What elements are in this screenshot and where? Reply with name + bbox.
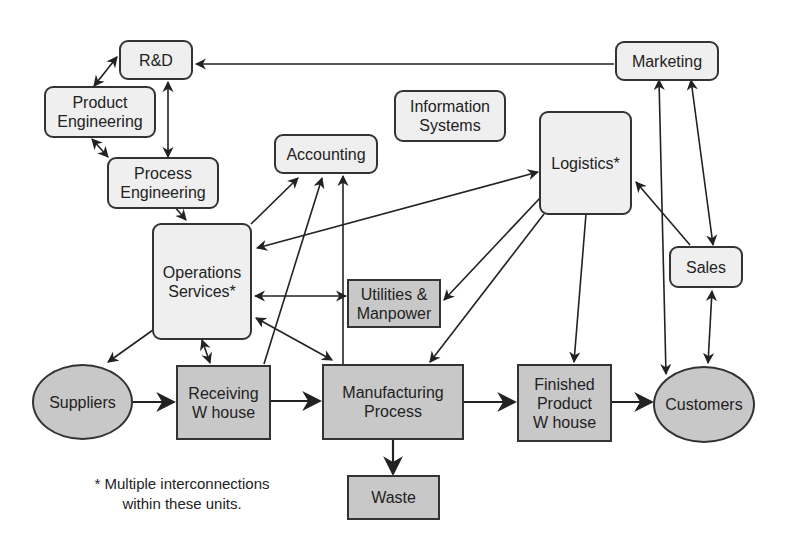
customers-node: Customers <box>653 366 755 443</box>
manufacturing-process-node: Manufacturing Process <box>322 364 464 440</box>
operations-services-node: Operations Services* <box>152 223 252 340</box>
information-systems-node: Information Systems <box>394 90 506 142</box>
manufacturing-organization-diagram: R&D Product Engineering Process Engineer… <box>0 0 785 552</box>
utilities-manpower-node: Utilities & Manpower <box>347 279 441 328</box>
rd-node: R&D <box>119 40 193 80</box>
process-engineering-node: Process Engineering <box>107 157 219 209</box>
suppliers-node: Suppliers <box>32 364 133 440</box>
sales-node: Sales <box>669 246 743 288</box>
waste-node: Waste <box>347 475 440 520</box>
logistics-node: Logistics* <box>539 111 632 215</box>
accounting-node: Accounting <box>274 134 378 174</box>
finished-product-warehouse-node: Finished Product W house <box>517 364 612 442</box>
product-engineering-node: Product Engineering <box>44 86 156 138</box>
connector-arrows <box>0 0 785 552</box>
footnote: * Multiple interconnections within these… <box>72 474 292 514</box>
receiving-warehouse-node: Receiving W house <box>176 365 271 440</box>
marketing-node: Marketing <box>615 41 719 81</box>
